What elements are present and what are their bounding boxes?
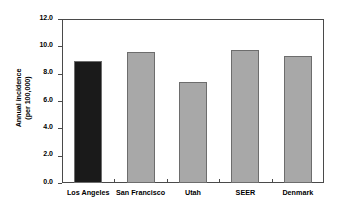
y-tick-label: 2.0 bbox=[43, 150, 53, 157]
x-tick-mark bbox=[167, 179, 168, 183]
x-tick-label: San Francisco bbox=[116, 188, 165, 197]
y-tick-mark bbox=[58, 183, 62, 184]
x-tick-label: Denmark bbox=[282, 188, 313, 197]
y-tick-mark bbox=[58, 101, 62, 102]
y-tick-label: 6.0 bbox=[43, 96, 53, 103]
y-tick-mark bbox=[58, 156, 62, 157]
y-tick-label: 10.0 bbox=[39, 41, 53, 48]
y-tick-mark bbox=[58, 74, 62, 75]
y-tick-label: 12.0 bbox=[39, 14, 53, 21]
y-axis-title: Annual incidence (per 100,000) bbox=[14, 52, 38, 144]
bar bbox=[74, 61, 102, 183]
bar bbox=[179, 82, 207, 183]
y-tick-label: 4.0 bbox=[43, 123, 53, 130]
x-tick-label: Los Angeles bbox=[67, 188, 109, 197]
y-axis-title-line1: Annual incidence bbox=[14, 52, 23, 144]
x-tick-label: Utah bbox=[185, 188, 201, 197]
y-tick-mark bbox=[58, 19, 62, 20]
y-tick-label: 8.0 bbox=[43, 68, 53, 75]
x-tick-mark bbox=[114, 179, 115, 183]
x-tick-mark bbox=[219, 179, 220, 183]
bar bbox=[284, 56, 312, 183]
y-tick-mark bbox=[58, 128, 62, 129]
y-tick-label: 0.0 bbox=[43, 178, 53, 185]
x-tick-label: SEER bbox=[236, 188, 256, 197]
y-axis-title-line2: (per 100,000) bbox=[23, 52, 32, 144]
bar bbox=[231, 50, 259, 183]
y-tick-mark bbox=[58, 46, 62, 47]
chart-figure: Annual incidence (per 100,000) 0.02.04.0… bbox=[0, 0, 343, 204]
bar bbox=[127, 52, 155, 183]
x-tick-mark bbox=[272, 179, 273, 183]
